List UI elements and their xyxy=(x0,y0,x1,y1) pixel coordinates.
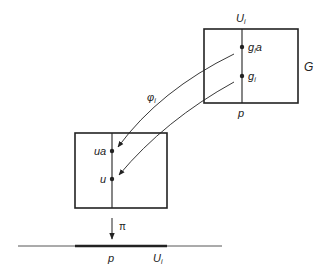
label-base-p: p xyxy=(108,253,114,264)
diagram-canvas xyxy=(0,0,326,277)
phi-arrow-lower xyxy=(119,82,234,175)
label-upper-Ui: Ui xyxy=(236,13,246,25)
label-pi: π xyxy=(119,222,126,232)
point-gi xyxy=(240,74,244,78)
label-phi-i: φi xyxy=(147,92,156,104)
label-upper-p: p xyxy=(238,108,244,119)
point-u xyxy=(110,177,114,181)
label-G: G xyxy=(304,61,313,73)
point-gia xyxy=(240,45,244,49)
lower-box xyxy=(75,133,167,208)
label-base-Ui: Ui xyxy=(153,253,163,265)
point-ua xyxy=(110,149,114,153)
label-gi: gi xyxy=(248,71,256,83)
label-u: u xyxy=(100,174,106,185)
label-ua: ua xyxy=(94,146,106,157)
label-gia: gia xyxy=(248,42,262,54)
